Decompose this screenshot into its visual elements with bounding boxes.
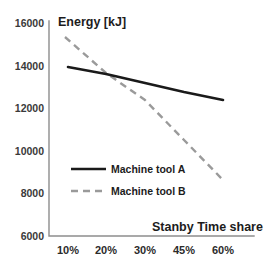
x-axis-tick-60: 60% (212, 244, 234, 256)
y-axis-title: Energy [kJ] (58, 15, 126, 29)
legend-label-machine-tool-a: Machine tool A (111, 163, 186, 175)
y-axis-tick-10000: 10000 (15, 145, 44, 157)
x-axis-tick-20: 20% (95, 244, 117, 256)
legend-label-machine-tool-b: Machine tool B (111, 185, 186, 197)
x-axis-tick-10: 10% (57, 244, 79, 256)
y-axis-tick-16000: 16000 (15, 17, 44, 29)
chart-container: 16000 14000 12000 10000 8000 6000 Energy… (0, 0, 272, 268)
y-axis-tick-6000: 6000 (21, 230, 45, 242)
x-axis-tick-45: 45% (173, 244, 195, 256)
y-axis-tick-14000: 14000 (15, 60, 44, 72)
y-axis-tick-8000: 8000 (21, 187, 45, 199)
x-axis-title: Stanby Time share (152, 220, 263, 234)
x-axis-tick-30: 30% (134, 244, 156, 256)
line-chart: 16000 14000 12000 10000 8000 6000 Energy… (0, 0, 272, 268)
y-axis-tick-12000: 12000 (15, 102, 44, 114)
